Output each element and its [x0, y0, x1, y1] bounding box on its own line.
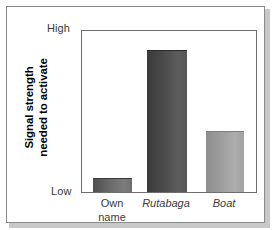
- plot-area: [81, 30, 257, 193]
- figure-container: Signal strength needed to activate High …: [0, 0, 273, 230]
- x-axis-labels: Own name Rutabaga Boat: [81, 196, 257, 230]
- figure-frame: Signal strength needed to activate High …: [6, 6, 265, 223]
- bar-boat: [206, 131, 244, 192]
- x-label-boat: Boat: [197, 196, 251, 210]
- y-axis-title: Signal strength needed to activate: [23, 40, 50, 176]
- x-label-rutabaga: Rutabaga: [138, 196, 194, 210]
- y-tick-high: High: [47, 22, 70, 34]
- bar-rutabaga: [147, 50, 187, 192]
- y-tick-low: Low: [51, 185, 71, 197]
- x-label-own-name: Own name: [81, 196, 143, 224]
- y-axis-title-line2: needed to activate: [36, 40, 50, 176]
- bar-own-name: [93, 178, 132, 192]
- bars-group: [82, 31, 256, 192]
- y-axis-title-line1: Signal strength: [23, 40, 37, 176]
